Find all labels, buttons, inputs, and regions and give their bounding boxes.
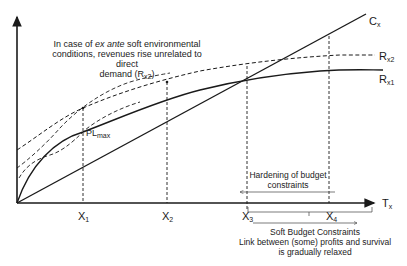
tick-x2: X2	[162, 210, 173, 226]
annotation-text: constraints	[248, 180, 328, 190]
shifted-revenue-curve-b	[19, 102, 140, 178]
label-pl-max: PLmax	[86, 127, 110, 142]
annotation-text: is gradually relaxed	[235, 247, 395, 257]
ex-ante-annotation: In case of ex ante soft environmental co…	[52, 39, 202, 82]
label-rx2: Rx2	[379, 50, 394, 66]
label-base: PL	[86, 128, 97, 138]
label-tx: Tx	[382, 197, 392, 213]
annotation-text: Link between (some) profits and survival	[235, 237, 395, 247]
label-rx1: Rx1	[379, 73, 394, 89]
soft-budget-annotation: Soft Budget Constraints Link between (so…	[235, 227, 395, 257]
hardening-annotation: Hardening of budget constraints	[248, 170, 328, 190]
tick-x1: X1	[78, 210, 89, 226]
annotation-italic: ex ante	[95, 39, 125, 49]
label-base: R	[379, 73, 387, 85]
annotation-text: conditions, revenues rise unrelated to d…	[52, 49, 202, 69]
label-sub: x	[377, 21, 381, 28]
label-base: T	[382, 197, 389, 209]
label-sub: x1	[387, 79, 394, 86]
annotation-text: Soft Budget Constraints	[235, 227, 395, 237]
label-base: C	[369, 15, 377, 27]
shifted-revenue-curve-a	[17, 73, 170, 168]
label-base: R	[379, 50, 387, 62]
label-sub: x2	[387, 56, 394, 63]
label-cx: Cx	[369, 15, 380, 31]
annotation-text: soft environmental	[125, 39, 201, 49]
tick-x3: X3	[242, 210, 253, 226]
annotation-text: )	[151, 69, 154, 79]
x1-marker	[82, 107, 85, 110]
label-sub: max	[97, 132, 110, 139]
annotation-text: Hardening of budget	[248, 170, 328, 180]
tick-sub: 4	[333, 216, 337, 223]
label-sub: x	[389, 203, 393, 210]
annotation-text: demand (R	[100, 69, 145, 79]
revenue-curve-rx1	[17, 70, 383, 203]
tick-x4: X4	[326, 210, 337, 226]
annotation-text: In case of	[53, 39, 95, 49]
tick-sub: 3	[249, 216, 253, 223]
tick-sub: 2	[169, 216, 173, 223]
tick-sub: 1	[85, 216, 89, 223]
soft-budget-bracket	[248, 207, 372, 212]
